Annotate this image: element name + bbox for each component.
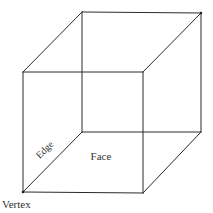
vertex-label: Vertex [2, 198, 31, 210]
edge-top-left-depth [23, 12, 82, 72]
edge-bottom-right-depth [143, 132, 201, 193]
vertex-dot-back-top-right [200, 12, 202, 14]
edge-front-bottom [23, 192, 143, 193]
face-label: Face [91, 150, 112, 162]
connecting-edges [23, 12, 201, 193]
cube-diagram: Edge Face Vertex [0, 0, 213, 213]
edge-back-top [82, 12, 201, 13]
edge-top-right-depth [143, 13, 201, 72]
edge-bottom-left-depth [23, 132, 82, 192]
edge-label: Edge [33, 138, 56, 161]
vertex-dot-front-bottom-left [22, 191, 25, 194]
